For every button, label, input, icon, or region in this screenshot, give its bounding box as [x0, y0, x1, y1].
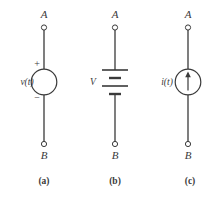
terminal-node-bottom	[185, 141, 190, 146]
terminal-label-b-bottom: B	[41, 149, 48, 161]
figure-root: A B + − v(t) (a) A B V	[0, 0, 209, 198]
caption-a: (a)	[38, 176, 49, 187]
terminal-node-bottom	[41, 141, 46, 146]
voltage-source-symbol	[31, 69, 57, 95]
polarity-minus-sign: −	[34, 92, 40, 103]
terminal-node-top	[185, 25, 190, 30]
caption-b: (b)	[109, 176, 121, 187]
terminal-node-bottom	[112, 141, 117, 146]
terminal-label-a-top: A	[40, 8, 48, 20]
terminal-node-top	[112, 25, 117, 30]
terminal-label-a-top: A	[184, 8, 192, 20]
terminal-label-b-bottom: B	[185, 149, 192, 161]
voltage-source-label: v(t)	[20, 77, 33, 88]
circuit-voltage-source: A B + − v(t) (a)	[20, 8, 56, 187]
polarity-plus-sign: +	[34, 58, 40, 69]
terminal-label-b-bottom: B	[112, 149, 119, 161]
terminal-label-a-top: A	[111, 8, 119, 20]
circuit-figure: A B + − v(t) (a) A B V	[0, 0, 209, 198]
terminal-node-top	[41, 25, 46, 30]
circuit-current-source: A B i(t) (c)	[161, 8, 201, 187]
battery-voltage-label: V	[90, 77, 97, 87]
battery-symbol	[102, 70, 128, 94]
circuit-battery: A B V (b)	[90, 8, 128, 187]
caption-c: (c)	[185, 176, 196, 187]
current-source-label: i(t)	[161, 77, 173, 88]
